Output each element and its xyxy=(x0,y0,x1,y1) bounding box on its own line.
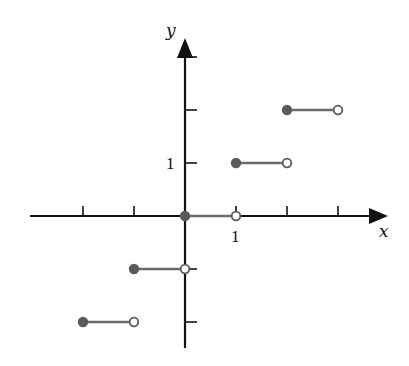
closed-dot-icon xyxy=(232,159,241,168)
step-segment xyxy=(232,159,292,168)
axes xyxy=(30,38,388,348)
step-function-chart: x y 1 1 xyxy=(0,0,409,366)
closed-dot-icon xyxy=(79,318,88,327)
step-segment xyxy=(130,265,190,274)
closed-dot-icon xyxy=(130,265,139,274)
open-dot-icon xyxy=(130,318,139,327)
open-dot-icon xyxy=(181,265,190,274)
y-axis-arrow-icon xyxy=(177,38,193,58)
closed-dot-icon xyxy=(181,212,190,221)
x-tick-label-1: 1 xyxy=(231,227,240,246)
step-segment xyxy=(181,212,241,221)
y-axis-label: y xyxy=(165,20,176,40)
y-ticks xyxy=(185,57,197,322)
step-segment xyxy=(79,318,139,327)
x-axis-label: x xyxy=(379,221,389,241)
closed-dot-icon xyxy=(283,106,292,115)
y-tick-label-1: 1 xyxy=(166,154,175,173)
open-dot-icon xyxy=(283,159,292,168)
open-dot-icon xyxy=(334,106,343,115)
open-dot-icon xyxy=(232,212,241,221)
x-ticks xyxy=(83,206,338,216)
step-segment xyxy=(283,106,343,115)
